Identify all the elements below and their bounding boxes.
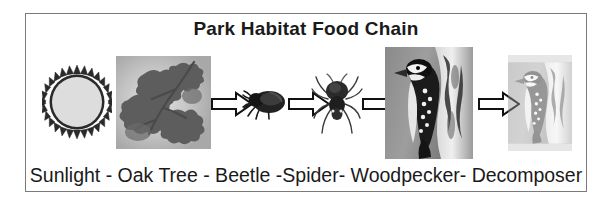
food-chain-caption: Sunlight - Oak Tree - Beetle -Spider- Wo… bbox=[26, 164, 586, 187]
stage-decomposer bbox=[504, 47, 584, 159]
faded-woodpecker-photo bbox=[508, 55, 572, 151]
stage-sunlight bbox=[36, 47, 114, 159]
food-chain-row bbox=[26, 47, 586, 159]
sun-icon bbox=[42, 63, 112, 141]
stage-spider bbox=[309, 47, 363, 159]
spider-icon bbox=[311, 71, 363, 135]
stage-oak-tree bbox=[114, 47, 212, 159]
page-title: Park Habitat Food Chain bbox=[26, 18, 586, 40]
woodpecker-photo bbox=[385, 47, 473, 159]
oak-leaves-photo bbox=[116, 56, 211, 149]
food-chain-diagram: Park Habitat Food Chain bbox=[25, 13, 587, 192]
stage-woodpecker bbox=[381, 47, 479, 159]
stage-beetle bbox=[239, 47, 291, 159]
beetle-icon bbox=[242, 85, 290, 121]
